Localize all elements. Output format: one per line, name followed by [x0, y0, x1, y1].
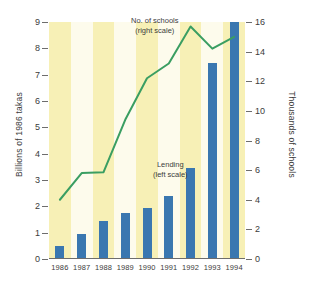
left-axis-tick-label: 8 — [20, 44, 40, 53]
left-axis-tick — [42, 75, 48, 76]
x-axis-line — [49, 258, 245, 259]
right-axis-tick-label: 2 — [255, 225, 277, 234]
right-axis-tick-label: 10 — [255, 107, 277, 116]
right-axis-tick — [246, 81, 252, 82]
left-axis-tick-label: 2 — [20, 202, 40, 211]
left-axis-tick — [42, 101, 48, 102]
right-axis-tick — [246, 52, 252, 53]
right-axis-tick-label: 0 — [255, 255, 277, 264]
chart-figure: 0123456789 0246810121416 198619871988198… — [0, 0, 309, 289]
right-axis-tick-label: 6 — [255, 166, 277, 175]
left-axis-tick — [42, 233, 48, 234]
left-axis-title: Billions of 1986 takas — [15, 75, 24, 195]
left-axis-tick — [42, 259, 48, 260]
right-axis-tick — [246, 259, 252, 260]
annotation-schools: No. of schools (right scale) — [131, 16, 179, 36]
x-axis-tick-label: 1994 — [221, 264, 247, 272]
right-axis-tick-label: 8 — [255, 137, 277, 146]
annotation-lending: Lending (left scale) — [153, 160, 188, 180]
right-axis-tick-label: 16 — [255, 18, 277, 27]
right-axis-tick — [246, 22, 252, 23]
left-axis-tick — [42, 206, 48, 207]
right-axis-tick — [246, 111, 252, 112]
left-axis-tick — [42, 48, 48, 49]
right-axis-tick-label: 4 — [255, 196, 277, 205]
right-axis-tick — [246, 229, 252, 230]
right-axis-tick-label: 12 — [255, 77, 277, 86]
right-axis-title: Thousands of schools — [287, 75, 296, 195]
left-axis-tick — [42, 154, 48, 155]
plot-area — [49, 22, 245, 259]
left-axis-tick-label: 0 — [20, 255, 40, 264]
line-series-schools — [49, 22, 245, 259]
left-axis-tick-label: 1 — [20, 229, 40, 238]
right-axis-tick — [246, 170, 252, 171]
right-axis-tick — [246, 200, 252, 201]
right-axis-tick — [246, 141, 252, 142]
left-axis-tick — [42, 180, 48, 181]
left-axis-tick-label: 9 — [20, 18, 40, 27]
left-axis-tick — [42, 22, 48, 23]
left-axis-tick — [42, 127, 48, 128]
right-axis-tick-label: 14 — [255, 48, 277, 57]
